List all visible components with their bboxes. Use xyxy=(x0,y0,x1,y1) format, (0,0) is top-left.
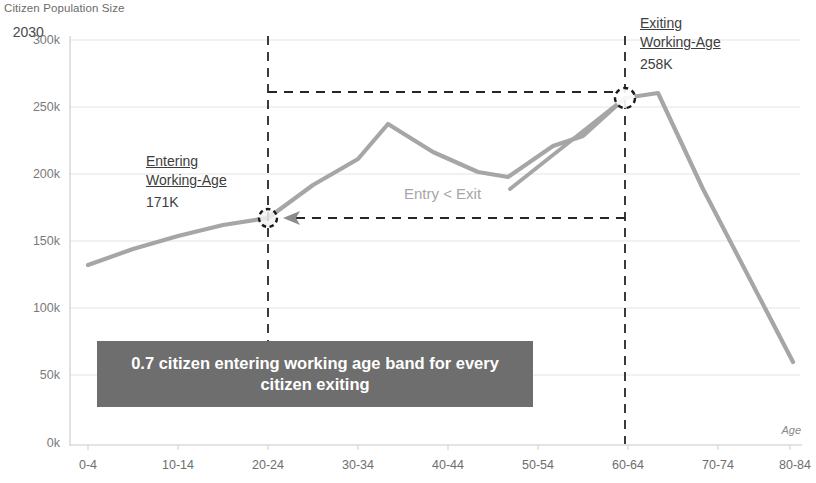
exiting-annotation-value: 258K xyxy=(640,52,780,75)
x-tick-label: 30-34 xyxy=(318,458,398,472)
entering-annotation: Entering Working-Age 171K xyxy=(146,152,276,213)
entering-annotation-line1: Entering xyxy=(146,152,276,171)
x-tick-label: 40-44 xyxy=(408,458,488,472)
y-tick-label: 0k xyxy=(4,436,60,450)
x-tick-marks xyxy=(88,445,790,450)
exiting-annotation-line1: Exiting xyxy=(640,14,780,33)
y-tick-label: 150k xyxy=(4,234,60,248)
exiting-annotation-line2: Working-Age xyxy=(640,33,780,52)
x-tick-label: 10-14 xyxy=(138,458,218,472)
comparison-label: Entry < Exit xyxy=(404,185,481,202)
x-tick-label: 60-64 xyxy=(588,458,668,472)
y-tick-label: 250k xyxy=(4,100,60,114)
x-tick-label: 70-74 xyxy=(678,458,758,472)
exiting-point-marker xyxy=(615,88,635,108)
x-tick-label: 20-24 xyxy=(228,458,308,472)
x-tick-label: 0-4 xyxy=(48,458,128,472)
y-tick-label: 200k xyxy=(4,167,60,181)
callout-text: 0.7 citizen entering working age band fo… xyxy=(97,353,533,395)
callout-box: 0.7 citizen entering working age band fo… xyxy=(97,341,533,407)
trend-line xyxy=(510,98,625,189)
entering-annotation-line2: Working-Age xyxy=(146,171,276,190)
y-tick-label: 300k xyxy=(4,33,60,47)
x-tick-label: 80-84 xyxy=(755,458,816,472)
y-tick-label: 100k xyxy=(4,301,60,315)
y-tick-label: 50k xyxy=(4,368,60,382)
x-axis-title: Age xyxy=(781,424,801,436)
x-tick-label: 50-54 xyxy=(498,458,578,472)
population-line xyxy=(88,93,793,362)
exiting-annotation: Exiting Working-Age 258K xyxy=(640,14,780,75)
entering-annotation-value: 171K xyxy=(146,190,276,213)
